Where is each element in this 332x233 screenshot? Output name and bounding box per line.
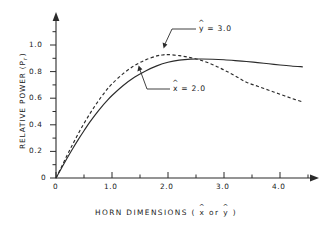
- annotation-yhat-value: = 3.0: [207, 24, 231, 33]
- circumflex-icon: ^: [172, 79, 179, 86]
- y-tick-label-10: 1.0: [29, 40, 42, 49]
- y-axis-title: RELATIVE POWER (Pr): [18, 26, 27, 176]
- circumflex-icon: ^: [199, 203, 206, 210]
- annotation-leader-solid: [137, 65, 170, 89]
- x-axis-title-xhat: ^x: [200, 208, 206, 217]
- x-tick-label-0: 0: [53, 182, 58, 191]
- circumflex-icon: ^: [198, 19, 205, 26]
- x-axis-title-yhat: ^y: [223, 208, 229, 217]
- xhat-symbol: ^x: [173, 84, 178, 93]
- y-tick-label-06: 0.6: [29, 93, 42, 102]
- x-tick-label-2: 2.0: [160, 182, 173, 191]
- annotation-xhat-value: = 2.0: [181, 84, 205, 93]
- y-axis-title-prefix: RELATIVE POWER (: [18, 65, 27, 148]
- y-axis-title-var: P: [18, 60, 27, 65]
- curve-xhat-2: [56, 59, 302, 178]
- x-axis-arrowhead: [310, 175, 319, 182]
- x-axis-ticks: [56, 172, 280, 178]
- x-axis-title-middle: or: [209, 208, 219, 217]
- y-axis-title-suffix: ): [18, 53, 27, 57]
- x-tick-label-1: 1.0: [104, 182, 117, 191]
- y-axis-arrowhead: [53, 12, 60, 21]
- x-tick-label-3: 3.0: [216, 182, 229, 191]
- circumflex-icon: ^: [222, 203, 229, 210]
- y-tick-label-08: 0.8: [29, 67, 42, 76]
- annotation-yhat-label: ^y = 3.0: [199, 24, 232, 33]
- y-tick-label-02: 0.2: [29, 146, 42, 155]
- curve-yhat-3: [56, 55, 302, 178]
- annotation-leader-dashed: [163, 29, 196, 49]
- y-axis-title-subscript: r: [22, 56, 28, 60]
- plot-area: [0, 0, 332, 233]
- yhat-symbol: ^y: [199, 24, 204, 33]
- y-tick-label-04: 0.4: [29, 120, 42, 129]
- y-tick-label-0: 0: [41, 173, 46, 182]
- figure-chart-relative-power: 0 1.0 2.0 3.0 4.0 0 0.2 0.4 0.6 0.8 1.0 …: [0, 0, 332, 233]
- x-axis-title: HORN DIMENSIONS ( ^x or ^y ): [0, 208, 332, 217]
- x-axis-title-suffix: ): [233, 208, 237, 217]
- x-tick-label-4: 4.0: [272, 182, 285, 191]
- annotation-xhat-label: ^x = 2.0: [173, 84, 206, 93]
- x-axis-title-prefix: HORN DIMENSIONS (: [95, 208, 196, 217]
